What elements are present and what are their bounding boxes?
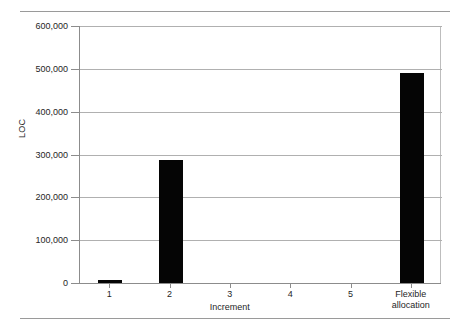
y-axis-tick	[71, 26, 79, 27]
gridline	[80, 26, 442, 27]
x-axis-tick	[290, 283, 291, 288]
top-horizontal-rule	[20, 11, 450, 12]
y-axis-tick-label: 400,000	[6, 107, 68, 117]
y-axis-labels: 0100,000200,000300,000400,000500,000600,…	[0, 0, 68, 335]
gridline	[80, 155, 442, 156]
y-axis-tick	[71, 197, 79, 198]
y-axis-tick	[71, 240, 79, 241]
gridline	[80, 240, 442, 241]
gridline	[80, 112, 442, 113]
y-axis-tick-label: 600,000	[6, 21, 68, 31]
gridline	[80, 197, 442, 198]
y-axis-tick-label: 0	[6, 278, 68, 288]
x-axis-tick-label: Flexibleallocation	[366, 289, 456, 311]
plot-area	[79, 26, 441, 283]
y-axis-tick	[71, 155, 79, 156]
x-axis-tick	[411, 283, 412, 288]
y-axis-tick-label: 100,000	[6, 235, 68, 245]
x-axis-tick	[170, 283, 171, 288]
x-axis-tick	[351, 283, 352, 288]
figure-container: LOC 0100,000200,000300,000400,000500,000…	[0, 0, 462, 335]
bar	[159, 160, 183, 283]
y-axis-tick-label: 500,000	[6, 64, 68, 74]
y-axis-tick-label: 300,000	[6, 150, 68, 160]
y-axis-tick	[71, 112, 79, 113]
x-axis-tick	[109, 283, 110, 288]
y-axis-tick-label: 200,000	[6, 192, 68, 202]
bottom-horizontal-rule	[20, 318, 450, 319]
gridline	[80, 69, 442, 70]
y-axis-tick	[71, 69, 79, 70]
x-axis-tick	[230, 283, 231, 288]
y-axis-tick	[71, 283, 79, 284]
bar	[400, 73, 424, 283]
x-axis-line	[71, 283, 441, 284]
x-axis-title: Increment	[170, 302, 290, 312]
